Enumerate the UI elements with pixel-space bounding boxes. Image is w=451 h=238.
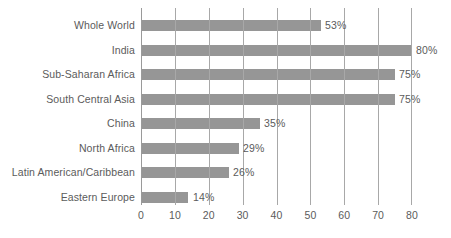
value-label-latin-american-caribbean: 26% bbox=[233, 167, 254, 178]
xtick-label-20: 20 bbox=[203, 210, 215, 221]
gridline-70 bbox=[378, 8, 379, 205]
value-label-south-central-asia: 75% bbox=[399, 94, 420, 105]
value-label-china: 35% bbox=[264, 118, 285, 129]
bar-chart: Whole World India Sub-Saharan Africa Sou… bbox=[0, 0, 451, 238]
bar-eastern-europe bbox=[141, 192, 188, 203]
xtick-label-0: 0 bbox=[138, 210, 144, 221]
category-label-south-central-asia: South Central Asia bbox=[46, 94, 135, 105]
value-label-eastern-europe: 14% bbox=[193, 192, 214, 203]
plot-area: 53% 80% 75% 75% 35% 29% 26% 14% bbox=[141, 8, 412, 205]
category-label-sub-saharan-africa: Sub-Saharan Africa bbox=[42, 69, 135, 80]
xtick-label-10: 10 bbox=[169, 210, 181, 221]
bar-south-central-asia bbox=[141, 94, 395, 105]
xtick-label-70: 70 bbox=[372, 210, 384, 221]
value-label-sub-saharan-africa: 75% bbox=[399, 69, 420, 80]
category-label-north-africa: North Africa bbox=[79, 143, 135, 154]
category-label-whole-world: Whole World bbox=[74, 20, 135, 31]
category-label-latin-american-caribbean: Latin American/Caribbean bbox=[12, 167, 135, 178]
value-label-north-africa: 29% bbox=[243, 143, 264, 154]
gridline-50 bbox=[310, 8, 311, 205]
xtick-label-80: 80 bbox=[406, 210, 418, 221]
gridline-60 bbox=[344, 8, 345, 205]
bar-whole-world bbox=[141, 20, 321, 31]
gridline-80 bbox=[411, 8, 412, 205]
xtick-label-60: 60 bbox=[338, 210, 350, 221]
bar-sub-saharan-africa bbox=[141, 69, 395, 80]
xtick-label-30: 30 bbox=[237, 210, 249, 221]
category-label-eastern-europe: Eastern Europe bbox=[61, 192, 135, 203]
gridline-20 bbox=[209, 8, 210, 205]
value-label-whole-world: 53% bbox=[325, 20, 346, 31]
category-label-china: China bbox=[107, 118, 135, 129]
gridline-40 bbox=[277, 8, 278, 205]
bar-north-africa bbox=[141, 143, 239, 154]
bar-latin-american-caribbean bbox=[141, 167, 229, 178]
value-label-india: 80% bbox=[416, 45, 437, 56]
category-label-india: India bbox=[112, 45, 135, 56]
xtick-label-40: 40 bbox=[271, 210, 283, 221]
gridline-10 bbox=[175, 8, 176, 205]
xtick-label-50: 50 bbox=[304, 210, 316, 221]
gridline-0 bbox=[141, 8, 142, 205]
